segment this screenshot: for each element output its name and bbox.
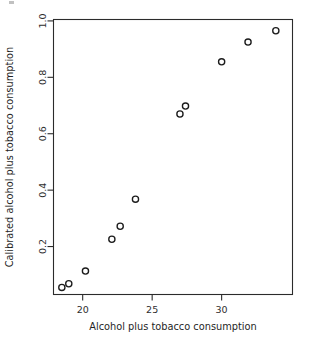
data-point [219,59,225,65]
y-axis-tick-labels: 0.20.40.60.81.0 [37,13,48,254]
data-point [182,103,188,109]
data-points [59,28,279,291]
y-tick-label-1.0: 1.0 [37,13,48,28]
y-tick-label-0.6: 0.6 [37,126,48,141]
y-tick-label-0.4: 0.4 [37,183,48,198]
y-tick-label-0.8: 0.8 [37,70,48,85]
x-axis-ticks [83,295,222,301]
x-tick-label-25: 25 [146,304,158,315]
data-point [177,111,183,117]
plot-canvas: 202530 0.20.40.60.81.0 Alcohol plus toba… [0,0,309,341]
data-point [132,196,138,202]
data-point [273,28,279,34]
scatter-plot-figure: 202530 0.20.40.60.81.0 Alcohol plus toba… [0,0,309,341]
x-axis-tick-labels: 202530 [77,304,228,315]
x-axis-label: Alcohol plus tobacco consumption [89,321,257,332]
data-point [245,39,251,45]
data-point [59,284,65,290]
x-tick-label-20: 20 [77,304,89,315]
x-tick-label-30: 30 [216,304,228,315]
y-tick-label-0.2: 0.2 [37,239,48,254]
data-point [82,268,88,274]
plot-frame [54,20,293,295]
y-axis-ticks [48,21,54,247]
data-point [66,281,72,287]
data-point [109,236,115,242]
data-point [117,223,123,229]
y-axis-label: Calibrated alcohol plus tobacco consumpt… [4,47,15,268]
